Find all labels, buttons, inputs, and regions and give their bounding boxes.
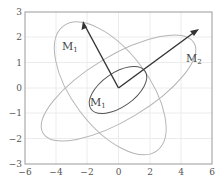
x-axis-ticks: −6 −4 −2 0 2 4 6 [18, 167, 215, 177]
label-m1-inner: M1 [90, 96, 106, 110]
svg-text:−1: −1 [9, 108, 22, 118]
svg-text:−2: −2 [9, 134, 22, 144]
label-m2: M2 [186, 52, 202, 66]
svg-text:4: 4 [178, 167, 184, 177]
svg-text:2: 2 [16, 32, 22, 42]
svg-text:3: 3 [16, 7, 22, 17]
svg-text:1: 1 [16, 58, 22, 68]
svg-text:0: 0 [16, 83, 22, 93]
svg-text:−6: −6 [18, 167, 32, 177]
svg-text:2: 2 [147, 167, 153, 177]
diagram-figure: M1 M1 M2 3 2 1 0 −1 −2 −3 −6 −4 −2 0 2 4… [0, 0, 224, 181]
svg-text:−2: −2 [80, 167, 93, 177]
svg-text:−4: −4 [49, 167, 63, 177]
svg-text:0: 0 [116, 167, 122, 177]
svg-text:6: 6 [209, 167, 215, 177]
y-axis-ticks: 3 2 1 0 −1 −2 −3 [9, 7, 23, 169]
label-m1-outer: M1 [62, 40, 78, 54]
